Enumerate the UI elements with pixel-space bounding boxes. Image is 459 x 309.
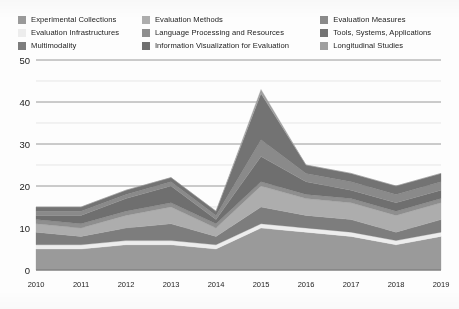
legend-item-multimodality: Multimodality: [18, 40, 142, 51]
x-axis-tick-label: 2015: [253, 280, 270, 289]
legend-column-1: Experimental Collections Evaluation Infr…: [18, 14, 142, 51]
legend-item-evaluation-methods: Evaluation Methods: [142, 14, 320, 25]
x-axis-tick-label: 2013: [163, 280, 180, 289]
x-axis-tick-label: 2016: [298, 280, 315, 289]
legend-item-language-processing-and-resources: Language Processing and Resources: [142, 27, 320, 38]
legend-label: Language Processing and Resources: [155, 28, 284, 37]
legend-column-3: Evaluation Measures Tools, Systems, Appl…: [320, 14, 459, 51]
legend-swatch-icon: [18, 42, 26, 50]
legend-item-tools-systems-applications: Tools, Systems, Applications: [320, 27, 459, 38]
legend-item-evaluation-measures: Evaluation Measures: [320, 14, 459, 25]
legend-swatch-icon: [320, 42, 328, 50]
x-axis-tick-label: 2017: [343, 280, 360, 289]
legend-label: Information Visualization for Evaluation: [155, 41, 289, 50]
x-axis-tick-label: 2014: [208, 280, 225, 289]
legend-item-experimental-collections: Experimental Collections: [18, 14, 142, 25]
legend-label: Evaluation Infrastructures: [31, 28, 119, 37]
x-axis-tick-label: 2018: [388, 280, 405, 289]
legend-swatch-icon: [320, 29, 328, 37]
legend-label: Evaluation Methods: [155, 15, 223, 24]
legend-swatch-icon: [320, 16, 328, 24]
legend-item-evaluation-infrastructures: Evaluation Infrastructures: [18, 27, 142, 38]
legend-label: Experimental Collections: [31, 15, 116, 24]
legend-label: Evaluation Measures: [333, 15, 405, 24]
chart-page: Experimental Collections Evaluation Infr…: [0, 0, 459, 309]
legend-swatch-icon: [142, 42, 150, 50]
x-axis-tick-label: 2011: [73, 280, 89, 289]
x-axis: 2010201120122013201420152016201720182019: [0, 52, 459, 309]
legend-item-information-visualization-for-evaluation: Information Visualization for Evaluation: [142, 40, 320, 51]
chart-legend: Experimental Collections Evaluation Infr…: [0, 14, 459, 56]
x-axis-tick-label: 2012: [118, 280, 135, 289]
legend-label: Longitudinal Studies: [333, 41, 403, 50]
x-axis-tick-label: 2010: [28, 280, 45, 289]
legend-swatch-icon: [142, 29, 150, 37]
legend-column-2: Evaluation Methods Language Processing a…: [142, 14, 320, 51]
legend-swatch-icon: [18, 16, 26, 24]
chart-plot-area: 01020304050 2010201120122013201420152016…: [0, 52, 459, 309]
legend-label: Tools, Systems, Applications: [333, 28, 431, 37]
legend-swatch-icon: [142, 16, 150, 24]
legend-label: Multimodality: [31, 41, 76, 50]
x-axis-tick-label: 2019: [433, 280, 450, 289]
legend-item-longitudinal-studies: Longitudinal Studies: [320, 40, 459, 51]
legend-swatch-icon: [18, 29, 26, 37]
